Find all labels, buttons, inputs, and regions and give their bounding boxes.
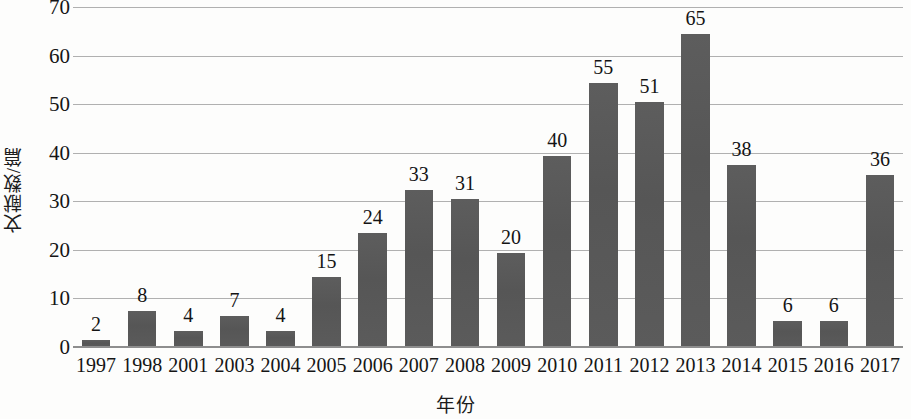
bar[interactable] xyxy=(681,34,710,348)
bar-column[interactable]: 24 xyxy=(358,8,387,348)
bar-value-label: 55 xyxy=(573,57,633,77)
bar-column[interactable]: 36 xyxy=(866,8,895,348)
bar-value-label: 65 xyxy=(665,8,725,28)
bar-column[interactable]: 20 xyxy=(497,8,526,348)
bar-column[interactable]: 31 xyxy=(451,8,480,348)
x-axis-line xyxy=(73,346,903,348)
y-axis-tick-label: 60 xyxy=(28,46,70,67)
y-axis-title-text: 文献数/篇 xyxy=(0,147,27,233)
bar-value-label: 38 xyxy=(712,139,772,159)
bar-column[interactable]: 65 xyxy=(681,8,710,348)
bar-value-label: 31 xyxy=(435,173,495,193)
bar-column[interactable]: 4 xyxy=(266,8,295,348)
bar-chart-figure: 文献数/篇 010203040506070 284741524333120405… xyxy=(0,0,911,419)
bar-column[interactable]: 6 xyxy=(820,8,849,348)
bar-column[interactable]: 33 xyxy=(405,8,434,348)
bar-value-label: 15 xyxy=(297,251,357,271)
y-axis-tick-label: 70 xyxy=(28,0,70,18)
bar-column[interactable]: 4 xyxy=(174,8,203,348)
y-axis-tick-label: 0 xyxy=(28,337,70,358)
bar[interactable] xyxy=(128,311,157,348)
bar-value-label: 6 xyxy=(804,295,864,315)
bar[interactable] xyxy=(589,83,618,348)
bar-value-label: 2 xyxy=(66,314,126,334)
y-axis-title: 文献数/篇 xyxy=(0,130,26,250)
x-axis-tick-label: 2017 xyxy=(849,355,911,375)
bar[interactable] xyxy=(220,316,249,348)
bar[interactable] xyxy=(635,102,664,348)
y-axis-tick-label: 10 xyxy=(28,288,70,309)
x-axis-title: 年份 xyxy=(0,390,911,417)
bar[interactable] xyxy=(727,165,756,348)
y-axis-tick-label: 20 xyxy=(28,240,70,261)
bar-column[interactable]: 7 xyxy=(220,8,249,348)
bar-value-label: 4 xyxy=(250,305,310,325)
bar-value-label: 51 xyxy=(619,76,679,96)
bar-value-label: 24 xyxy=(343,207,403,227)
bar[interactable] xyxy=(820,321,849,348)
bar-column[interactable]: 2 xyxy=(82,8,111,348)
bar-column[interactable]: 38 xyxy=(727,8,756,348)
bar[interactable] xyxy=(451,199,480,348)
bar-value-label: 36 xyxy=(850,149,910,169)
plot-area: 28474152433312040555165386636 xyxy=(73,8,903,348)
y-axis-tick-label: 50 xyxy=(28,94,70,115)
bar-value-label: 20 xyxy=(481,227,541,247)
bar-column[interactable]: 40 xyxy=(543,8,572,348)
bar-column[interactable]: 8 xyxy=(128,8,157,348)
bar[interactable] xyxy=(312,277,341,348)
bar-column[interactable]: 15 xyxy=(312,8,341,348)
bar[interactable] xyxy=(405,190,434,348)
bar[interactable] xyxy=(497,253,526,348)
bar-column[interactable]: 6 xyxy=(773,8,802,348)
bar[interactable] xyxy=(866,175,895,348)
y-axis-tick-label: 40 xyxy=(28,143,70,164)
bar-value-label: 40 xyxy=(527,130,587,150)
y-axis-tick-label: 30 xyxy=(28,191,70,212)
bar[interactable] xyxy=(773,321,802,348)
bar-column[interactable]: 55 xyxy=(589,8,618,348)
bar[interactable] xyxy=(543,156,572,348)
bar-column[interactable]: 51 xyxy=(635,8,664,348)
bar[interactable] xyxy=(358,233,387,348)
x-axis-tick-labels: 1997199820012003200420052006200720082009… xyxy=(73,355,903,383)
bar-value-label: 8 xyxy=(112,285,172,305)
y-axis-tick-labels: 010203040506070 xyxy=(24,0,70,419)
